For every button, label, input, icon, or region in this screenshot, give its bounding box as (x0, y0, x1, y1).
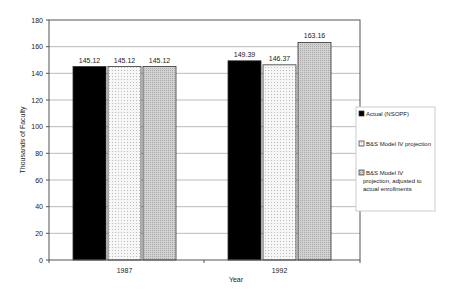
bar-value-label: 145.12 (149, 57, 171, 64)
x-tick-label: 1992 (272, 267, 288, 274)
chart-root: 020406080100120140160180 145.12145.12145… (0, 0, 458, 300)
bar-value-label: 146.37 (269, 55, 291, 62)
y-tick-label: 120 (31, 97, 43, 104)
bar-chart: 020406080100120140160180 145.12145.12145… (0, 0, 458, 300)
bar (298, 42, 331, 260)
y-tick-label: 0 (39, 257, 43, 264)
legend-swatch (359, 111, 364, 116)
x-axis-ticks: 19871992 (49, 260, 360, 274)
legend: Actual (NSOPF)B&S Model IV projectionB&S… (356, 107, 435, 211)
y-tick-label: 100 (31, 123, 43, 130)
y-tick-label: 180 (31, 17, 43, 24)
y-tick-label: 60 (35, 177, 43, 184)
bar-value-label: 149.39 (234, 51, 256, 58)
bar (228, 61, 261, 260)
y-tick-label: 20 (35, 230, 43, 237)
bars: 145.12145.12145.12149.39146.37163.16 (73, 32, 331, 260)
bar-value-label: 145.12 (79, 57, 101, 64)
bar-value-label: 145.12 (114, 57, 136, 64)
legend-label: B&S Model IV projection (366, 141, 431, 147)
legend-label: projection, adjusted to (363, 178, 422, 184)
y-axis-label: Thousands of Faculty (19, 106, 27, 173)
bar (143, 67, 176, 260)
bar (108, 67, 141, 260)
x-tick-label: 1987 (117, 267, 133, 274)
legend-box (356, 107, 435, 211)
y-tick-label: 40 (35, 203, 43, 210)
bar (263, 65, 296, 260)
legend-label: actual enrollments (363, 186, 412, 192)
legend-swatch (359, 170, 364, 175)
bar (73, 67, 106, 260)
legend-swatch (359, 141, 364, 146)
legend-label: B&S Model IV (366, 170, 403, 176)
y-tick-label: 140 (31, 70, 43, 77)
y-tick-label: 160 (31, 43, 43, 50)
y-axis-ticks: 020406080100120140160180 (31, 17, 49, 264)
legend-label: Actual (NSOPF) (366, 111, 409, 117)
bar-value-label: 163.16 (304, 32, 326, 39)
x-axis-label: Year (229, 276, 244, 283)
y-tick-label: 80 (35, 150, 43, 157)
